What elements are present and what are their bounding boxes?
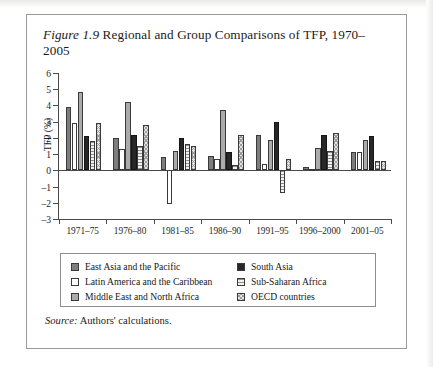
bar [381, 161, 386, 171]
bar [96, 123, 101, 170]
bar [90, 141, 95, 170]
y-axis-tick-mark [53, 187, 59, 188]
bar-group [351, 73, 386, 219]
y-axis-tick-mark [53, 138, 59, 139]
bar [268, 140, 273, 171]
bar [321, 135, 326, 171]
legend-item-label: South Asia [251, 261, 293, 272]
y-axis-tick-mark [53, 122, 59, 123]
bar [375, 161, 380, 171]
bar [113, 138, 118, 170]
legend-item: South Asia [237, 261, 371, 272]
x-axis-tick-mark [106, 219, 107, 224]
x-axis-tick-label: 1976–80 [114, 226, 147, 236]
x-axis-tick-mark [201, 219, 202, 224]
y-axis-tick-mark [53, 105, 59, 106]
x-axis-tick-label: 1991–95 [256, 226, 289, 236]
bar [72, 123, 77, 170]
x-axis-tick-mark [59, 219, 60, 224]
figure-label: Figure 1.9 [43, 27, 99, 42]
bar [327, 151, 332, 170]
chart-plot-frame: TFP (%) –3–2–101234561971–751976–801981–… [58, 73, 391, 220]
legend-item: OECD countries [237, 291, 371, 302]
bar [131, 135, 136, 171]
source-text: Authors' calculations. [80, 315, 172, 326]
y-axis-tick-label: 6 [25, 68, 51, 79]
bar [238, 135, 243, 171]
figure-container: Figure 1.9 Regional and Group Comparison… [26, 14, 407, 349]
source-note: Source: Authors' calculations. [45, 315, 172, 326]
bar [161, 157, 166, 170]
y-axis-tick-mark [53, 89, 59, 90]
bar [185, 144, 190, 170]
legend-swatch [71, 278, 79, 286]
x-axis-tick-label: 2001–05 [351, 226, 384, 236]
page-background: Figure 1.9 Regional and Group Comparison… [0, 0, 433, 367]
bar [214, 159, 219, 170]
y-axis-tick-mark [53, 73, 59, 74]
bar [333, 133, 338, 170]
x-axis-tick-mark [296, 219, 297, 224]
bar [286, 159, 291, 170]
bar-group [113, 73, 148, 219]
bar [173, 151, 178, 170]
bar-group [66, 73, 101, 219]
y-axis-tick-label: 5 [25, 84, 51, 95]
bar [262, 164, 267, 170]
bar [78, 92, 83, 170]
y-axis-tick-label: 0 [25, 165, 51, 176]
x-axis-tick-mark [344, 219, 345, 224]
scan-edge-top [0, 0, 433, 8]
bar [357, 152, 362, 170]
bar-group [256, 73, 291, 219]
source-label: Source: [45, 315, 78, 326]
legend-swatch [71, 263, 79, 271]
legend-item-label: Sub-Saharan Africa [251, 276, 326, 287]
legend-swatch [71, 293, 79, 301]
x-axis-tick-label: 1986–90 [209, 226, 242, 236]
x-axis-tick-label: 1981–85 [161, 226, 194, 236]
bar [220, 110, 225, 170]
legend-swatch [237, 293, 245, 301]
legend-item-label: OECD countries [251, 291, 315, 302]
bar-group [303, 73, 338, 219]
bar [274, 122, 279, 171]
x-axis-tick-label: 1971–75 [66, 226, 99, 236]
y-axis-tick-label: 4 [25, 100, 51, 111]
bar [363, 140, 368, 171]
legend-swatch [237, 278, 245, 286]
y-axis-tick-mark [53, 154, 59, 155]
bar [256, 135, 261, 171]
bar [179, 138, 184, 170]
bar [84, 136, 89, 170]
bar [191, 146, 196, 170]
bar [280, 170, 285, 193]
y-axis-tick-label: 3 [25, 116, 51, 127]
bar-group [161, 73, 196, 219]
bar [66, 107, 71, 170]
figure-title: Figure 1.9 Regional and Group Comparison… [43, 27, 383, 58]
bar [167, 170, 172, 204]
legend-item: Middle East and North Africa [71, 291, 237, 302]
y-axis-tick-mark [53, 203, 59, 204]
y-axis-tick-label: 1 [25, 149, 51, 160]
bar [143, 125, 148, 170]
bar [315, 148, 320, 171]
y-axis-tick-label: –3 [25, 214, 51, 225]
y-axis-tick-label: 2 [25, 132, 51, 143]
bar [226, 152, 231, 170]
bar [125, 102, 130, 170]
y-axis-tick-label: –2 [25, 197, 51, 208]
chart-plot-area: –3–2–101234561971–751976–801981–851986–9… [59, 73, 391, 219]
bar [351, 152, 356, 170]
x-axis-tick-mark [154, 219, 155, 224]
x-axis-tick-mark [391, 219, 392, 224]
bar [208, 156, 213, 171]
legend-item-label: Middle East and North Africa [85, 291, 199, 302]
legend-swatch [237, 263, 245, 271]
legend-item-label: East Asia and the Pacific [85, 261, 180, 272]
legend-item: Sub-Saharan Africa [237, 276, 371, 287]
scan-edge-right [426, 0, 433, 367]
bar [119, 149, 124, 170]
bar [309, 169, 314, 171]
